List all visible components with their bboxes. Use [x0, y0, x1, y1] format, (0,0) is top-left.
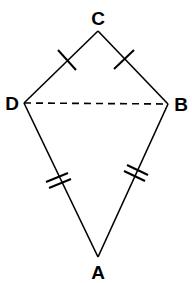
side-da: [24, 103, 98, 257]
kite-figure: C D B A: [0, 0, 192, 283]
diagonal-db: [24, 103, 168, 104]
side-ba: [98, 104, 168, 257]
kite-diagram: C D B A: [0, 0, 192, 283]
vertex-label-b: B: [174, 94, 188, 115]
vertex-label-a: A: [91, 262, 105, 283]
side-cd: [24, 31, 98, 103]
vertex-label-d: D: [5, 93, 19, 114]
vertex-label-c: C: [91, 8, 105, 29]
side-cb: [98, 31, 168, 104]
